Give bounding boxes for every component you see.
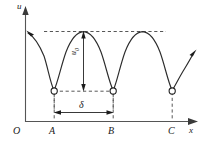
amplitude-label-subscript: 0 [74,48,80,51]
marker-point-c [169,88,175,94]
period-label: δ [79,100,84,110]
curve-right-continuation-arrowhead [190,50,197,57]
figure-container: u x O A B C δ u0 [0,0,207,144]
y-axis-arrowhead [22,6,28,15]
marker-point-a [51,88,57,94]
point-b-label: B [108,126,114,136]
x-axis [26,118,199,125]
amplitude-label-base: u [69,51,78,55]
y-axis-label: u [17,2,22,11]
amplitude-arrowhead-bottom [81,84,85,91]
y-axis [22,6,28,122]
period-arrowhead-left [54,110,61,114]
x-axis-label: x [189,126,193,135]
potential-curve [28,32,193,91]
amplitude-label: u0 [70,48,80,55]
period-arrowhead-right [107,110,114,114]
amplitude-dimension [81,31,85,91]
curve-left-continuation-arrowhead [26,30,34,36]
periodic-potential-plot [0,0,207,144]
point-c-label: C [168,126,175,136]
x-axis-arrowhead [188,118,198,125]
point-a-label: A [49,126,55,136]
marker-point-b [110,88,116,94]
origin-label: O [13,126,20,136]
